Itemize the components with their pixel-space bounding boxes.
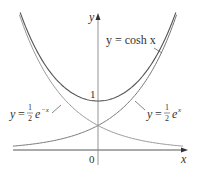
svg-text:1: 1 (165, 103, 169, 112)
svg-text:=: = (155, 107, 162, 121)
svg-text:2: 2 (28, 114, 32, 123)
half-exp-pos-leader (135, 101, 145, 110)
y-axis-arrow-icon (96, 13, 101, 20)
svg-text:2: 2 (165, 114, 169, 123)
svg-text:−x: −x (41, 106, 50, 114)
origin-label: 0 (89, 153, 95, 165)
cosh-graph: 1 0 x y y = cosh x y = 1 2 e −x y = 1 2 … (0, 0, 198, 175)
svg-text:y: y (9, 107, 16, 121)
y-tick-label-1: 1 (90, 88, 96, 100)
svg-text:y: y (146, 107, 153, 121)
half-exp-neg-leader (52, 105, 61, 113)
cosh-label: y = cosh x (106, 33, 156, 47)
half-exp-neg-label: y = 1 2 e −x (9, 103, 50, 123)
svg-text:=: = (18, 107, 25, 121)
svg-text:1: 1 (28, 103, 32, 112)
x-axis-label: x (180, 152, 187, 166)
half-exp-pos-label: y = 1 2 e x (146, 103, 182, 123)
half-exp-neg-curve (19, 15, 183, 146)
y-axis-label: y (88, 10, 95, 24)
svg-text:x: x (177, 106, 182, 114)
